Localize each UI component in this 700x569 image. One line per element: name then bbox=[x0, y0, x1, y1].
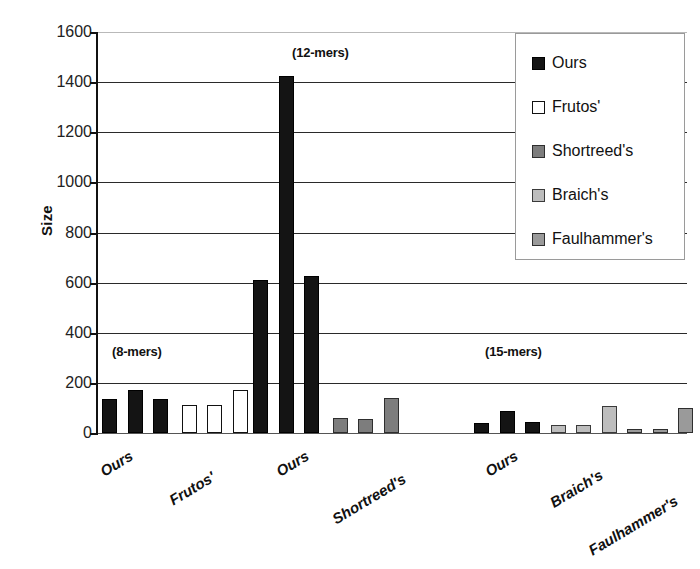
bar bbox=[551, 425, 566, 433]
y-axis-tickmark bbox=[90, 333, 98, 335]
legend-label: Faulhammer's bbox=[552, 231, 653, 247]
bar bbox=[304, 276, 319, 433]
bar-chart: Size 16001400120010008006004002000 (8-me… bbox=[0, 0, 700, 569]
y-axis-tick-label: 800 bbox=[40, 225, 92, 241]
legend-item-faulhammers[interactable]: Faulhammer's bbox=[532, 231, 653, 247]
bar bbox=[576, 425, 591, 433]
legend-label: Ours bbox=[552, 55, 587, 71]
y-axis-tickmark bbox=[90, 132, 98, 134]
legend-swatch-icon bbox=[532, 101, 545, 114]
y-axis-tick-label: 200 bbox=[40, 375, 92, 391]
legend-label: Frutos' bbox=[552, 99, 600, 115]
group-annotation: (8-mers) bbox=[112, 344, 162, 359]
y-axis-tick-label: 400 bbox=[40, 325, 92, 341]
bar bbox=[253, 280, 268, 433]
legend-swatch-icon bbox=[532, 57, 545, 70]
bar bbox=[525, 422, 540, 433]
legend-label: Shortreed's bbox=[552, 143, 633, 159]
y-axis-tick-label: 1200 bbox=[40, 124, 92, 140]
bar bbox=[182, 405, 197, 433]
y-axis-tickmark bbox=[90, 82, 98, 84]
bar bbox=[233, 390, 248, 433]
legend-item-ours[interactable]: Ours bbox=[532, 55, 587, 71]
legend-swatch-icon bbox=[532, 189, 545, 202]
gridline bbox=[98, 383, 687, 384]
bar bbox=[333, 418, 348, 433]
gridline bbox=[98, 333, 687, 334]
bar bbox=[102, 399, 117, 433]
bar bbox=[474, 423, 489, 433]
bar bbox=[358, 419, 373, 433]
legend-swatch-icon bbox=[532, 233, 545, 246]
y-axis-tickmark bbox=[90, 433, 98, 435]
bar bbox=[279, 76, 294, 433]
legend-item-braichs[interactable]: Braich's bbox=[532, 187, 608, 203]
bar bbox=[653, 429, 668, 433]
y-axis-tick-label: 1400 bbox=[40, 74, 92, 90]
bar bbox=[627, 429, 642, 433]
y-axis-tick-label: 1000 bbox=[40, 174, 92, 190]
y-axis-tickmark bbox=[90, 233, 98, 235]
legend[interactable]: OursFrutos'Shortreed'sBraich'sFaulhammer… bbox=[515, 33, 685, 260]
bar bbox=[207, 405, 222, 433]
legend-item-shortreeds[interactable]: Shortreed's bbox=[532, 143, 633, 159]
bar bbox=[153, 399, 168, 433]
bar bbox=[602, 406, 617, 433]
gridline bbox=[98, 283, 687, 284]
y-axis-tick-label: 0 bbox=[40, 425, 92, 441]
y-axis-tickmark bbox=[90, 32, 98, 34]
y-axis-tick-label: 1600 bbox=[40, 24, 92, 40]
bar bbox=[500, 411, 515, 433]
y-axis-tickmark bbox=[90, 182, 98, 184]
y-axis-tick-label: 600 bbox=[40, 275, 92, 291]
bar bbox=[128, 390, 143, 433]
legend-swatch-icon bbox=[532, 145, 545, 158]
legend-label: Braich's bbox=[552, 187, 608, 203]
bar bbox=[384, 398, 399, 433]
group-annotation: (15-mers) bbox=[485, 344, 542, 359]
group-annotation: (12-mers) bbox=[292, 45, 349, 60]
legend-item-frutos[interactable]: Frutos' bbox=[532, 99, 600, 115]
bar bbox=[678, 408, 693, 433]
y-axis-tickmark bbox=[90, 383, 98, 385]
y-axis-tickmark bbox=[90, 283, 98, 285]
